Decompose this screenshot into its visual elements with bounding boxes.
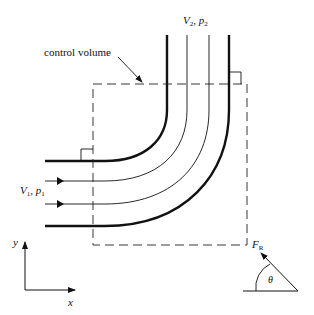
- outlet-label: V2, p2: [183, 14, 208, 28]
- flow-arrow-icon: [57, 177, 64, 185]
- angle-label: θ: [268, 274, 273, 285]
- pressure-tap-inlet: [81, 149, 93, 161]
- pipe-outer-wall: [45, 35, 229, 226]
- force-sub: R: [259, 244, 264, 252]
- inlet-velocity: V: [20, 184, 27, 196]
- inlet-pressure-sub: 1: [41, 190, 45, 198]
- y-axis-label: y: [13, 236, 18, 248]
- inlet-label: V1, p1: [20, 184, 45, 198]
- control-volume-pointer: [118, 57, 142, 82]
- outlet-velocity: V: [183, 14, 190, 26]
- x-axis-label: x: [68, 296, 73, 308]
- streamline-2: [45, 35, 209, 204]
- resultant-force-arrow: [261, 253, 298, 291]
- force-label: FR: [252, 238, 263, 252]
- outlet-pressure-sub: 2: [204, 20, 208, 28]
- control-volume-boundary: [93, 84, 247, 245]
- flow-arrow-icon: [57, 200, 64, 208]
- control-volume-label: control volume: [44, 46, 111, 58]
- pressure-tap-outlet: [229, 72, 241, 84]
- force-symbol: F: [252, 238, 259, 250]
